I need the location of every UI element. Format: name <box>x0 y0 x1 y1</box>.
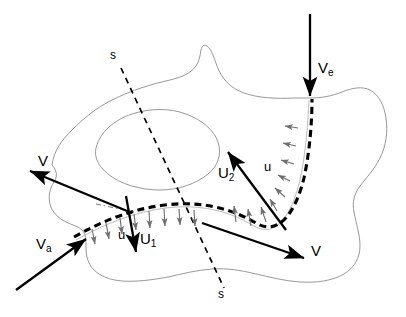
vector-U-1 <box>126 196 136 252</box>
label-normal-velocity-lower: u <box>118 228 125 241</box>
label-velocity-right-text: V <box>311 242 321 259</box>
label-velocity-ambient-sub: a <box>46 243 52 254</box>
vector-U-2 <box>228 152 286 230</box>
label-velocity-ambient-text: V <box>36 235 46 252</box>
label-velocity-left: V <box>38 153 48 168</box>
label-velocity-left-text: V <box>38 152 48 169</box>
label-velocity-entry: Ve <box>318 60 334 75</box>
label-normal-velocity-upper: u <box>264 160 271 173</box>
section-label-bottom: s <box>218 288 224 300</box>
inner-contour <box>96 110 220 191</box>
label-velocity-right: V <box>311 243 321 258</box>
diagram-canvas <box>0 0 406 317</box>
label-interface-speed-1-sub: 1 <box>151 238 157 249</box>
section-line-s <box>121 68 224 288</box>
label-velocity-entry-sub: e <box>328 67 334 78</box>
section-label-top: s <box>110 49 116 61</box>
figure-container: s s V Va Ve U1 U2 u u V <box>0 0 406 317</box>
label-interface-speed-1-text: U <box>140 230 151 247</box>
label-interface-speed-2-text: U <box>218 164 229 181</box>
vector-V-right <box>202 223 304 258</box>
label-interface-speed-2: U2 <box>218 165 234 180</box>
label-velocity-ambient: Va <box>36 236 52 251</box>
label-interface-speed-2-sub: 2 <box>229 172 235 183</box>
label-velocity-entry-text: V <box>318 59 328 76</box>
label-interface-speed-1: U1 <box>140 231 156 246</box>
vector-V-left <box>30 171 132 213</box>
